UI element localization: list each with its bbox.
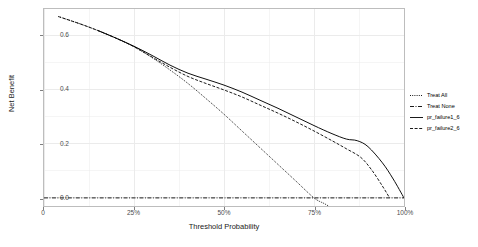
x-tick-mark [43,207,44,210]
x-tick-mark [224,207,225,210]
x-tick-label: 25% [127,210,140,217]
legend-key-icon [409,102,424,111]
y-tick-mark [40,90,43,91]
legend-label: pr_failure2_6 [427,126,460,132]
legend-item: Treat All [409,90,478,101]
y-tick-mark [40,35,43,36]
x-tick-label: 75% [308,210,321,217]
y-tick-label: 0.2 [60,141,69,148]
chart-figure: 0.00.20.40.6 Net Benefit 025%50%75%100% … [0,0,478,247]
plot-panel [43,8,405,207]
x-tick-label: 100% [397,210,414,217]
y-tick-label: 0.4 [60,86,69,93]
y-tick-mark [40,199,43,200]
legend-item: pr_failure1_6 [409,112,478,123]
x-tick-mark [405,207,406,210]
legend-key-icon [409,124,424,133]
series-line [58,17,332,206]
x-tick-mark [315,207,316,210]
y-axis-title: Net Benefit [7,58,16,130]
grid-lines [44,9,404,206]
y-tick-label: 0.0 [60,195,69,202]
figure-caption [0,240,478,247]
y-tick-mark [40,144,43,145]
legend-label: Treat None [427,104,455,110]
legend-key-icon [409,113,424,122]
legend-label: pr_failure1_6 [427,115,460,121]
chart-legend: Treat AllTreat Nonepr_failure1_6pr_failu… [409,90,478,134]
y-tick-label: 0.6 [60,32,69,39]
plot-canvas [44,9,404,206]
series-line [98,31,404,198]
x-axis-title: Threshold Probability [43,222,405,231]
x-tick-label: 50% [217,210,230,217]
x-tick-label: 0 [41,210,45,217]
legend-label: Treat All [427,93,447,99]
legend-item: Treat None [409,101,478,112]
x-tick-mark [134,207,135,210]
legend-item: pr_failure2_6 [409,123,478,134]
legend-key-icon [409,91,424,100]
